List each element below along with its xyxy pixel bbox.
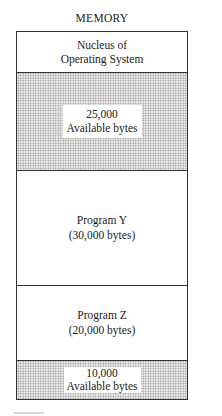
section-label-line2: Available bytes [67, 380, 138, 393]
section-label-line1: Program Z [69, 308, 135, 323]
section-label-line1: 25,000 [67, 107, 138, 122]
section-label: 25,000 Available bytes [63, 105, 142, 138]
section-label-line1: 10,000 [67, 367, 138, 380]
section-label: 10,000 Available bytes [64, 367, 141, 393]
memory-box: Nucleus of Operating System 25,000 Avail… [16, 31, 188, 400]
section-label: Nucleus of Operating System [61, 38, 144, 67]
section-label: Program Y (30,000 bytes) [69, 213, 135, 242]
cropped-caption-fragment [14, 412, 44, 414]
section-program-z: Program Z (20,000 bytes) [17, 285, 187, 360]
section-os-nucleus: Nucleus of Operating System [17, 32, 187, 72]
section-divider [17, 72, 187, 73]
section-divider [17, 285, 187, 286]
section-free-space-1: 25,000 Available bytes [17, 72, 187, 170]
section-divider [17, 360, 187, 361]
section-program-y: Program Y (30,000 bytes) [17, 170, 187, 285]
diagram-title: MEMORY [16, 12, 188, 24]
section-label-line2: Available bytes [67, 121, 138, 136]
section-free-space-2: 10,000 Available bytes [17, 360, 187, 399]
section-label-line2: (30,000 bytes) [69, 228, 135, 243]
section-label-line2: Operating System [61, 52, 144, 67]
section-label-line1: Nucleus of [61, 38, 144, 53]
section-label: Program Z (20,000 bytes) [69, 308, 135, 337]
section-divider [17, 170, 187, 171]
section-label-line2: (20,000 bytes) [69, 323, 135, 338]
section-label-line1: Program Y [69, 213, 135, 228]
